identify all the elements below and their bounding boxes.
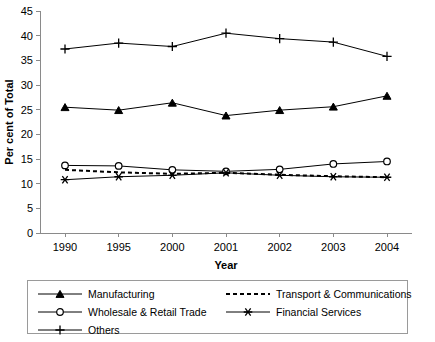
data-point-marker	[61, 176, 70, 183]
data-point-marker	[244, 308, 253, 315]
y-tick-label: 10	[21, 178, 33, 190]
x-tick-label: 2003	[321, 241, 345, 253]
legend-item-label: Others	[88, 322, 120, 338]
data-point-marker	[383, 92, 391, 99]
y-tick-label: 25	[21, 104, 33, 116]
y-axis-title: Per cent of Total	[3, 79, 15, 164]
x-axis-title: Year	[214, 259, 238, 271]
y-tick-label: 5	[27, 202, 33, 214]
legend-marker-icon	[36, 286, 84, 302]
chart-plot-area: 051015202530354045 199019952000200120022…	[0, 0, 435, 280]
y-tick-label: 30	[21, 79, 33, 91]
x-tick-label: 2001	[214, 241, 238, 253]
data-point-marker	[62, 162, 69, 169]
y-tick-label: 45	[21, 5, 33, 17]
data-point-marker	[275, 34, 284, 43]
x-tick-label: 2000	[160, 241, 184, 253]
data-point-marker	[382, 52, 391, 61]
legend-item[interactable]: Financial Services	[224, 304, 361, 320]
data-point-marker	[221, 29, 230, 38]
data-point-marker	[330, 161, 337, 168]
data-point-marker	[57, 309, 64, 316]
y-tick-label: 15	[21, 153, 33, 165]
series-0	[61, 92, 391, 119]
data-point-marker	[383, 174, 392, 181]
data-point-marker	[114, 173, 123, 180]
legend-item-label: Wholesale & Retail Trade	[88, 304, 206, 320]
data-point-marker	[168, 42, 177, 51]
x-tick-label: 1990	[53, 241, 77, 253]
legend-item[interactable]: Manufacturing	[36, 286, 155, 302]
data-point-marker	[329, 37, 338, 46]
y-axis: 051015202530354045	[21, 5, 40, 239]
y-tick-label: 35	[21, 54, 33, 66]
data-point-marker	[114, 38, 123, 47]
data-point-marker	[60, 44, 69, 53]
legend-marker-icon	[224, 304, 272, 320]
chart-legend: ManufacturingTransport & CommunicationsW…	[27, 280, 408, 334]
y-tick-label: 0	[27, 227, 33, 239]
legend-marker-icon	[224, 286, 272, 302]
x-tick-label: 1995	[106, 241, 130, 253]
data-point-marker	[384, 158, 391, 165]
x-tick-label: 2002	[267, 241, 291, 253]
x-tick-label: 2004	[375, 241, 399, 253]
legend-item-label: Transport & Communications	[276, 286, 412, 302]
line-chart: 051015202530354045 199019952000200120022…	[0, 0, 435, 342]
legend-marker-icon	[36, 304, 84, 320]
series-2	[60, 29, 391, 61]
legend-marker-icon	[36, 322, 84, 338]
y-tick-label: 40	[21, 30, 33, 42]
data-point-marker	[115, 163, 122, 170]
x-axis: 1990199520002001200220032004	[40, 233, 412, 253]
y-tick-label: 20	[21, 128, 33, 140]
data-point-marker	[329, 173, 338, 180]
series-layer	[60, 29, 391, 184]
legend-item-label: Manufacturing	[88, 286, 155, 302]
legend-item[interactable]: Others	[36, 322, 120, 338]
legend-item-label: Financial Services	[276, 304, 361, 320]
legend-item[interactable]: Wholesale & Retail Trade	[36, 304, 206, 320]
data-point-marker	[55, 325, 64, 334]
legend-item[interactable]: Transport & Communications	[224, 286, 412, 302]
